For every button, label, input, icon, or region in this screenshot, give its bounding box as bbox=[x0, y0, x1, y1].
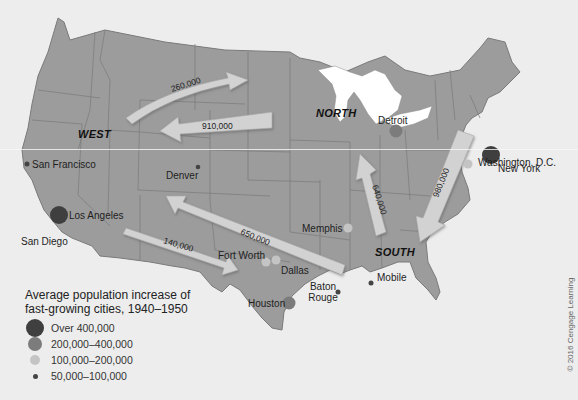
city-label-detroit: Detroit bbox=[378, 115, 407, 126]
legend-dot-large bbox=[26, 319, 44, 337]
legend-title-line1: Average population increase of bbox=[25, 288, 225, 302]
dot-denver bbox=[196, 165, 201, 170]
legend-item-over-400k: Over 400,000 bbox=[25, 320, 225, 336]
region-north: NORTH bbox=[316, 107, 356, 119]
city-label-houston: Houston bbox=[248, 298, 285, 309]
city-label-memphis: Memphis bbox=[302, 223, 343, 234]
arrow-label-910000: 910,000 bbox=[202, 121, 233, 131]
legend-label: Over 400,000 bbox=[51, 322, 115, 334]
legend-title: Average population increase of fast-grow… bbox=[25, 288, 225, 316]
dot-dallas bbox=[272, 256, 281, 265]
legend-item-50k-100k: 50,000–100,000 bbox=[25, 368, 225, 384]
city-label-washington-dc: Washington, D.C. bbox=[478, 157, 556, 168]
legend-label: 50,000–100,000 bbox=[51, 370, 127, 382]
legend-dot-tiny bbox=[33, 374, 38, 379]
legend-label: 100,000–200,000 bbox=[51, 354, 133, 366]
city-label-san-diego: San Diego bbox=[21, 236, 68, 247]
city-label-fort-worth: Fort Worth bbox=[218, 250, 265, 261]
dot-memphis bbox=[344, 224, 353, 233]
city-label-baton-rouge: Baton Rouge bbox=[308, 281, 338, 303]
legend-item-200k-400k: 200,000–400,000 bbox=[25, 336, 225, 352]
city-label-dallas: Dallas bbox=[281, 265, 309, 276]
copyright-notice: © 2016 Cengage Learning bbox=[567, 278, 576, 372]
region-south: SOUTH bbox=[375, 246, 415, 258]
dot-san-francisco bbox=[25, 162, 30, 167]
dot-los-angeles bbox=[50, 206, 68, 224]
legend-label: 200,000–400,000 bbox=[51, 338, 133, 350]
city-label-san-francisco: San Francisco bbox=[32, 159, 96, 170]
dot-mobile bbox=[369, 281, 374, 286]
legend-dot-medium bbox=[28, 337, 42, 351]
scan-seam bbox=[0, 149, 578, 150]
legend: Average population increase of fast-grow… bbox=[25, 288, 225, 384]
region-west: WEST bbox=[78, 128, 111, 140]
city-label-mobile: Mobile bbox=[377, 272, 406, 283]
city-label-los-angeles: Los Angeles bbox=[69, 210, 124, 221]
dot-washington-dc bbox=[464, 160, 473, 169]
dot-detroit bbox=[390, 125, 403, 138]
legend-item-100k-200k: 100,000–200,000 bbox=[25, 352, 225, 368]
legend-dot-small bbox=[30, 355, 40, 365]
legend-title-line2: fast-growing cities, 1940–1950 bbox=[25, 302, 225, 316]
city-label-denver: Denver bbox=[166, 170, 198, 181]
